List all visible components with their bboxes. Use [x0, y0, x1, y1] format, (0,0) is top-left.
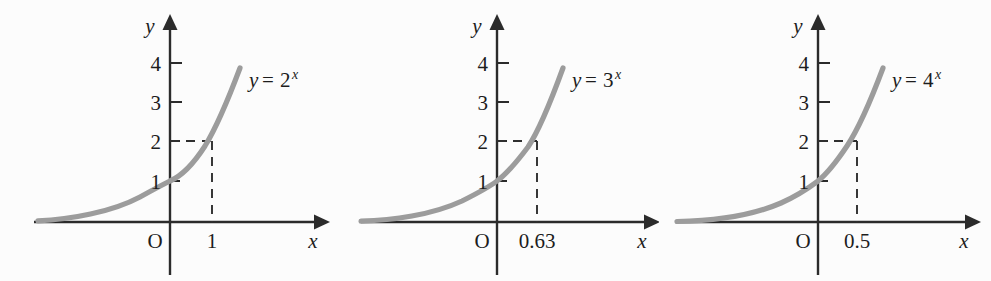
y-tick-label-3: 3	[478, 91, 489, 115]
x-axis-arrowhead	[965, 215, 981, 230]
curve-label-exponent: x	[291, 67, 299, 82]
curve-label-y: y	[570, 68, 582, 92]
curve-label-base: 3	[603, 68, 614, 92]
chart-panel-1: 4 3 2 1 O 1 y x y = 2 x	[0, 0, 331, 281]
chart-svg-1: 4 3 2 1 O 1 y x y = 2 x	[0, 0, 331, 281]
chart-panel-3: 4 3 2 1 O 0.5 y x y = 4 x	[655, 0, 986, 281]
x-tick-label-1: 0.5	[844, 229, 870, 253]
x-tick-label-1: 1	[207, 229, 218, 253]
curve-label-equals: =	[585, 68, 597, 92]
origin-label: O	[147, 229, 162, 253]
curve-label-y: y	[247, 68, 259, 92]
curve-label-exponent: x	[934, 67, 942, 82]
curve-label-base: 2	[280, 68, 291, 92]
y-tick-label-2: 2	[478, 130, 489, 154]
origin-label: O	[795, 229, 810, 253]
y-tick-label-2: 2	[151, 130, 162, 154]
y-axis-arrowhead	[490, 14, 505, 30]
chart-panel-2: 4 3 2 1 O 0.63 y x y = 3 x	[328, 0, 659, 281]
x-axis-name: x	[307, 229, 318, 253]
y-axis-name: y	[143, 14, 155, 38]
y-tick-label-3: 3	[151, 91, 162, 115]
x-axis-name: x	[958, 229, 969, 253]
exponential-functions-figure: 4 3 2 1 O 1 y x y = 2 x	[0, 0, 991, 281]
curve-label-group: y = 2 x	[247, 67, 299, 92]
exponential-curve	[677, 68, 883, 222]
origin-label: O	[474, 229, 489, 253]
curve-label-equals: =	[262, 68, 274, 92]
curve-label-base: 4	[923, 68, 934, 92]
y-tick-label-4: 4	[151, 52, 162, 76]
y-tick-label-4: 4	[478, 52, 489, 76]
y-tick-label-4: 4	[799, 52, 810, 76]
exponential-curve	[361, 68, 563, 221]
y-axis-arrowhead	[811, 14, 826, 30]
y-tick-label-2: 2	[799, 130, 810, 154]
curve-label-group: y = 4 x	[890, 67, 942, 92]
y-tick-label-1: 1	[799, 170, 810, 194]
y-axis-name: y	[791, 14, 803, 38]
x-tick-label-1: 0.63	[519, 229, 556, 253]
y-axis-arrowhead	[163, 14, 178, 30]
curve-label-group: y = 3 x	[570, 67, 622, 92]
exponential-curve	[38, 68, 240, 221]
y-tick-label-3: 3	[799, 91, 810, 115]
curve-label-exponent: x	[614, 67, 622, 82]
y-axis-name: y	[470, 14, 482, 38]
x-axis-name: x	[636, 229, 647, 253]
curve-label-equals: =	[905, 68, 917, 92]
y-tick-label-1: 1	[478, 170, 489, 194]
curve-label-y: y	[890, 68, 902, 92]
chart-svg-3: 4 3 2 1 O 0.5 y x y = 4 x	[655, 0, 991, 281]
y-tick-label-1: 1	[151, 170, 162, 194]
chart-svg-2: 4 3 2 1 O 0.63 y x y = 3 x	[328, 0, 659, 281]
